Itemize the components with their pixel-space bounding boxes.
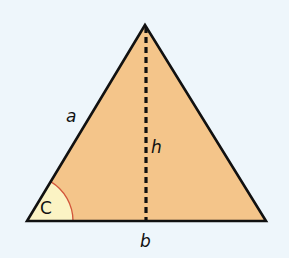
side-a-label: a [66, 106, 76, 126]
height-label: h [151, 137, 162, 157]
angle-c-label: C [40, 198, 52, 218]
triangle-figure: a h C b [0, 0, 289, 258]
triangle-diagram: a h C b [0, 0, 289, 258]
base-b-label: b [140, 231, 151, 251]
